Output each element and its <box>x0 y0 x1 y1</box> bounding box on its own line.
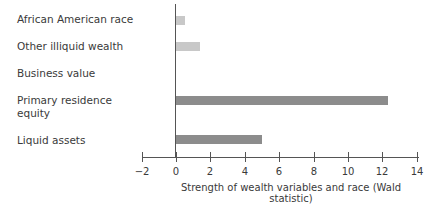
x-tick <box>279 152 280 162</box>
x-tick-label: 0 <box>164 166 188 177</box>
x-tick-label: 14 <box>405 166 429 177</box>
bar-liquid-assets <box>176 135 262 144</box>
x-tick <box>417 152 418 162</box>
x-axis-line <box>142 157 419 158</box>
x-tick <box>314 152 315 162</box>
x-tick <box>210 152 211 162</box>
x-tick-label: 12 <box>370 166 394 177</box>
category-label-line2: equity <box>17 107 50 119</box>
category-label-liquid-assets: Liquid assets <box>17 134 85 147</box>
bar-other-illiquid-wealth <box>176 42 200 51</box>
x-tick-label: 2 <box>198 166 222 177</box>
x-tick-label: 10 <box>336 166 360 177</box>
category-label-business-value: Business value <box>17 67 95 80</box>
x-tick <box>245 152 246 162</box>
x-axis-label: Strength of wealth variables and race (W… <box>176 182 406 204</box>
x-tick <box>176 152 177 162</box>
category-label-other-illiquid-wealth: Other illiquid wealth <box>17 40 123 53</box>
category-label-african-american-race: African American race <box>17 13 133 26</box>
x-tick <box>382 152 383 162</box>
x-tick-label: 4 <box>233 166 257 177</box>
x-tick <box>348 152 349 162</box>
x-tick-label: 8 <box>302 166 326 177</box>
x-tick-label: 6 <box>267 166 291 177</box>
category-label-primary-residence-equity: Primary residence equity <box>17 94 112 120</box>
y-axis-line <box>175 4 176 158</box>
bar-african-american-race <box>176 16 185 25</box>
x-tick-label: −2 <box>130 166 154 177</box>
x-tick <box>142 152 143 162</box>
bar-primary-residence-equity <box>176 96 388 105</box>
category-label-line1: Primary residence <box>17 94 112 106</box>
